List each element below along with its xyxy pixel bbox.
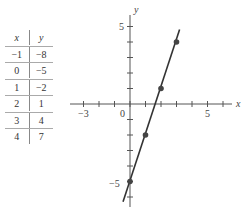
- x-tick-label-zero: 0: [120, 108, 125, 119]
- data-point: [143, 132, 149, 138]
- graph-line: [123, 30, 180, 202]
- x-tick-label-5: 5: [205, 108, 210, 119]
- x-tick-label-neg3: −3: [78, 108, 89, 119]
- data-point: [127, 179, 133, 185]
- x-axis-label: x: [235, 98, 241, 109]
- y-tick-label-neg5: −5: [109, 178, 120, 189]
- y-tick-label-5: 5: [119, 21, 124, 32]
- data-point: [158, 86, 164, 92]
- coordinate-plane: x y −3 0 5 5 −5: [0, 0, 247, 212]
- y-axis-label: y: [133, 4, 139, 15]
- data-point: [174, 39, 180, 45]
